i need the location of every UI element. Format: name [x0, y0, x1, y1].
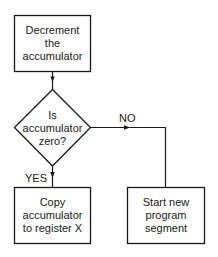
- yes-label: YES: [25, 172, 47, 184]
- decision-text: Is accumulator zero?: [15, 109, 90, 148]
- start-new-line-2: program: [143, 209, 189, 222]
- copy-line-3: to register X: [23, 222, 83, 235]
- arrowhead-down-icon: [50, 77, 54, 83]
- no-label: NO: [119, 112, 136, 124]
- arrowhead-right-icon: [124, 125, 130, 129]
- copy-line-2: accumulator: [23, 209, 83, 222]
- decrement-line-2: the: [23, 37, 83, 50]
- decision-line-2: accumulator: [23, 122, 83, 135]
- decision-line-3: zero?: [23, 135, 83, 148]
- decision-line-1: Is: [23, 109, 83, 122]
- decrement-line-3: accumulator: [23, 50, 83, 63]
- start-new-line-3: segment: [143, 222, 189, 235]
- start-new-text: Start new program segment: [128, 188, 204, 243]
- arrowhead-down-icon: [50, 172, 54, 178]
- decrement-line-1: Decrement: [23, 24, 83, 37]
- edge-decision-to-start-new: [91, 128, 166, 188]
- decrement-text: Decrement the accumulator: [15, 16, 90, 71]
- copy-line-1: Copy: [23, 196, 83, 209]
- copy-text: Copy accumulator to register X: [15, 188, 90, 243]
- start-new-line-1: Start new: [143, 196, 189, 209]
